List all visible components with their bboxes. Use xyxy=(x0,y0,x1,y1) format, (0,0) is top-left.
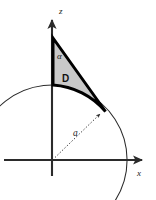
geometry-figure: z x α D a xyxy=(0,0,156,200)
radius-a-label: a xyxy=(73,128,78,138)
z-axis-label: z xyxy=(58,6,63,16)
x-axis-label: x xyxy=(136,168,141,178)
alpha-angle-label: α xyxy=(57,51,62,61)
region-D-label: D xyxy=(62,73,69,84)
figure-background xyxy=(0,0,156,200)
figure-canvas: z x α D a xyxy=(0,0,156,200)
